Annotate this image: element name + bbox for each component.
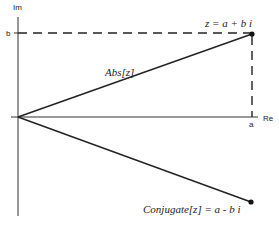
- conjugate-label: Conjugate[z] = a - b i: [143, 203, 241, 215]
- point-conjugate: [248, 199, 253, 204]
- y-axis-label: Im: [13, 3, 22, 12]
- complex-plane-diagram: Im b a Re Abs[z] z = a + b i Conjugate[z…: [0, 0, 279, 231]
- vector-conjugate: [18, 117, 251, 202]
- x-axis-label: Re: [263, 114, 274, 123]
- modulus-label: Abs[z]: [104, 66, 134, 78]
- y-tick-label: b: [6, 29, 11, 38]
- point-z: [249, 31, 254, 36]
- point-label: z = a + b i: [204, 17, 252, 29]
- vector-z: [18, 34, 252, 117]
- x-tick-label: a: [249, 120, 254, 129]
